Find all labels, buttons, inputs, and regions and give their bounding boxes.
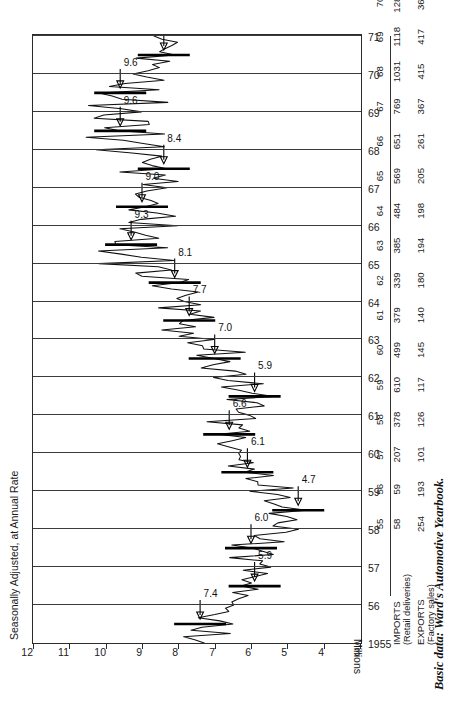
gridline-year	[33, 490, 361, 491]
table-cell: 59	[391, 484, 402, 495]
gridline-year	[33, 73, 361, 74]
y-axis-tick-label: 10	[94, 647, 106, 658]
annotation-arrow	[171, 259, 178, 278]
y-axis-tick-label: 5	[281, 647, 287, 658]
table-row-title: EXPORTS	[415, 584, 426, 645]
table-year-header: 56	[374, 484, 385, 495]
table-header-row: 55565758596061626364656667686970	[374, 28, 391, 644]
gridline-year	[33, 225, 361, 226]
y-axis-tick	[287, 643, 288, 649]
gridline-year	[33, 149, 361, 150]
annotation-arrow	[117, 107, 124, 126]
table-cell: 1031	[391, 61, 402, 82]
table-row-title: IMPORTS	[391, 574, 402, 645]
table-cell: 126	[415, 412, 426, 428]
chart-title: Seasonally Adjusted, at Annual Rate	[8, 471, 20, 640]
table-cell: 610	[391, 377, 402, 393]
annotation-arrow	[160, 145, 167, 164]
gridline-year	[33, 376, 361, 377]
gridline-year	[33, 339, 361, 340]
table-year-header: 61	[374, 310, 385, 321]
y-axis-tick-label: 4	[318, 647, 324, 658]
table-cell: 254	[415, 516, 426, 532]
table-cell: 378	[391, 412, 402, 428]
table-row-cells: 2541931011261171451401801941982052613674…	[415, 28, 437, 536]
table-cell: 569	[391, 168, 402, 184]
table-cell: 207	[391, 446, 402, 462]
table-year-header: 55	[374, 519, 385, 530]
gridline-year	[33, 414, 361, 415]
table-cell: 101	[415, 446, 426, 462]
annual-average-annotation: 7.4	[204, 588, 218, 599]
table-cell: 194	[415, 238, 426, 254]
table-cell: 415	[415, 64, 426, 80]
y-axis-tick-label: 6	[245, 647, 251, 658]
y-axis-tick	[69, 643, 70, 649]
gridline-year	[33, 452, 361, 453]
table-year-header: 63	[374, 240, 385, 251]
table-cell: 379	[391, 307, 402, 323]
table-cell: 651	[391, 133, 402, 149]
gridline-year	[33, 604, 361, 605]
table-cell: 261	[415, 133, 426, 149]
table-cell: 769	[391, 98, 402, 114]
table-row: IMPORTS(Retail deliveries)58592073786104…	[391, 28, 415, 644]
annual-average-annotation: 6.1	[251, 436, 265, 447]
rotated-chart-stage: Seasonally Adjusted, at Annual Rate 1211…	[0, 0, 460, 702]
annotation-arrow	[295, 486, 302, 505]
annual-average-annotation: 6.6	[233, 398, 247, 409]
annual-average-annotation: 4.7	[302, 474, 316, 485]
gridline-year	[33, 111, 361, 112]
gridline-year	[33, 566, 361, 567]
table-year-header: 70	[374, 0, 385, 7]
annual-average-annotation: 9.0	[146, 171, 160, 182]
annual-average-annotation: 9.6	[124, 95, 138, 106]
annual-average-annotation: 9.6	[124, 57, 138, 68]
data-table: 55565758596061626364656667686970IMPORTS(…	[374, 28, 437, 644]
table-header-cells: 55565758596061626364656667686970	[374, 28, 391, 536]
table-year-header: 57	[374, 449, 385, 460]
table-year-header: 64	[374, 205, 385, 216]
table-year-header: 65	[374, 171, 385, 182]
table-row-header: IMPORTS(Retail deliveries)	[391, 574, 412, 645]
table-year-header: 68	[374, 66, 385, 77]
annual-average-annotation: 8.1	[178, 247, 192, 258]
table-cell: 58	[391, 519, 402, 530]
table-cell: 198	[415, 203, 426, 219]
table-cell: 339	[391, 272, 402, 288]
table-cell: 1280	[391, 0, 402, 13]
table-cell: 360	[415, 0, 426, 10]
annual-average-annotation: 6.0	[255, 512, 269, 523]
y-axis-tick	[178, 643, 179, 649]
annual-average-annotation: 5.9	[258, 360, 272, 371]
gridline-year	[33, 35, 361, 36]
annotation-arrow	[251, 372, 258, 391]
table-year-header: 66	[374, 136, 385, 147]
annual-average-annotation: 5.9	[258, 550, 272, 561]
annual-average-annotation: 7.7	[193, 285, 207, 296]
table-year-header: 59	[374, 379, 385, 390]
annotation-arrow	[211, 335, 218, 354]
table-year-header: 58	[374, 414, 385, 425]
gridline-year	[33, 301, 361, 302]
annotation-arrow	[197, 600, 204, 619]
y-axis-tick-label: 12	[21, 647, 33, 658]
table-year-header: 60	[374, 345, 385, 356]
source-caption: Basic data: Ward's Automotive Yearbook.	[432, 478, 447, 690]
table-cell: 193	[415, 481, 426, 497]
annual-average-annotation: 9.3	[135, 209, 149, 220]
table-cell: 499	[391, 342, 402, 358]
table-row-cells: 5859207378610499379339385484569651769103…	[391, 28, 415, 536]
table-cell: 205	[415, 168, 426, 184]
monthly-sales-line	[86, 36, 306, 643]
plot-area: 1211109876543 19555657585960616263646566…	[32, 34, 362, 644]
table-row-subtitle: (Retail deliveries)	[402, 574, 412, 645]
table-year-header: 67	[374, 101, 385, 112]
table-cell: 417	[415, 29, 426, 45]
table-cell: 367	[415, 98, 426, 114]
y-axis-tick-label: 11	[58, 647, 69, 658]
table-cell: 385	[391, 238, 402, 254]
gridline-year	[33, 528, 361, 529]
table-year-header: 62	[374, 275, 385, 286]
table-year-header: 69	[374, 31, 385, 42]
